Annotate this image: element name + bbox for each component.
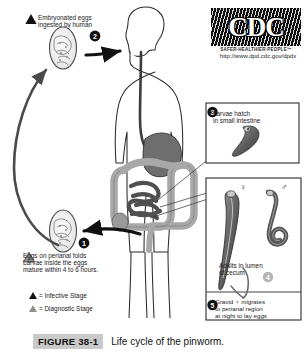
svg-text:4: 4 bbox=[266, 274, 270, 281]
cdc-tagline: SAFER·HEALTHIER·PEOPLE™ bbox=[211, 47, 301, 52]
female-symbol-box: ♀ bbox=[240, 182, 246, 192]
svg-text:5: 5 bbox=[211, 302, 215, 309]
svg-text:2: 2 bbox=[93, 33, 97, 40]
label-embryonated-eggs-ingested: Embryonated eggs ingested by human bbox=[38, 14, 92, 28]
cdc-wordmark: CDC bbox=[211, 8, 301, 46]
legend-infective-label: = Infective Stage bbox=[39, 292, 87, 299]
label-larvae-hatch-in-small-intestine: Larvae hatch in small intestine bbox=[213, 110, 260, 124]
cycle-arrow-left bbox=[14, 70, 58, 245]
step-badge-1: 1 bbox=[79, 238, 90, 249]
cdc-logo-mark: CDC bbox=[211, 8, 301, 46]
ingestion-arrow bbox=[86, 51, 120, 55]
figure-number-tag: FIGURE 38-1 bbox=[33, 334, 103, 349]
figure-caption: FIGURE 38-1 Life cycle of the pinworm. bbox=[0, 330, 307, 352]
figure-pinworm-life-cycle: 2 1 3 4 5 bbox=[0, 0, 307, 356]
legend-infective-stage: = Infective Stage bbox=[29, 292, 87, 299]
label-adults-in-lumen-of-cecum: Adults in lumen of cecum bbox=[219, 262, 263, 276]
svg-text:1: 1 bbox=[82, 240, 86, 247]
diagnostic-stage-icon bbox=[29, 305, 37, 312]
egg-perianal-lower bbox=[50, 210, 77, 252]
label-gravid-female-migrates: Gravid ♀ migrates to perianal region at … bbox=[215, 299, 267, 320]
cdc-logo-block: CDC SAFER·HEALTHIER·PEOPLE™ http://www.d… bbox=[211, 8, 301, 59]
egg-embryonated-upper bbox=[50, 27, 77, 69]
legend-diagnostic-label: = Diagnostic Stage bbox=[39, 305, 93, 312]
label-eggs-on-perianal-folds: Eggs on perianal folds Larvae inside the… bbox=[23, 252, 98, 274]
infective-stage-icon bbox=[29, 292, 37, 299]
cdc-url[interactable]: http://www.dpd.cdc.gov/dpdx bbox=[211, 53, 305, 59]
step-badge-4: 4 bbox=[263, 272, 273, 282]
legend-diagnostic-stage: = Diagnostic Stage bbox=[29, 305, 93, 312]
diagram-canvas: 2 1 3 4 5 bbox=[0, 0, 307, 326]
male-symbol-box: ♂ bbox=[281, 182, 287, 192]
figure-caption-text: Life cycle of the pinworm. bbox=[111, 336, 224, 347]
human-legs bbox=[129, 252, 170, 318]
infective-stage-triangle-ingested bbox=[25, 14, 36, 24]
step-badge-2: 2 bbox=[90, 31, 101, 42]
